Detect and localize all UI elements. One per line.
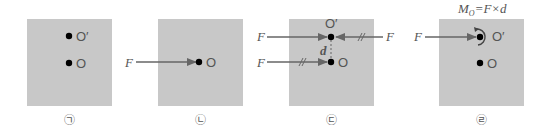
svg-text:O′: O′ <box>325 16 338 31</box>
svg-text:F: F <box>385 29 395 44</box>
point-o <box>328 59 334 65</box>
svg-text:O: O <box>487 56 497 71</box>
force-moment-diagram: O′ O ㉠ F O ㉡ F F O′ d F O ㉢ MO=F×d <box>0 0 551 137</box>
point-o <box>196 59 202 65</box>
caption-c: ㉢ <box>326 114 337 127</box>
svg-text:O′: O′ <box>76 29 89 44</box>
svg-text:O: O <box>76 56 86 71</box>
caption-d: ㉣ <box>476 114 487 127</box>
panel-a: O′ O ㉠ <box>27 19 112 127</box>
panel-d: MO=F×d F O′ O ㉣ <box>413 1 524 127</box>
panel-c: F F O′ d F O ㉢ <box>256 16 395 127</box>
panel-b: F O ㉡ <box>124 19 243 127</box>
svg-text:F: F <box>256 55 266 70</box>
point-o-prime <box>477 34 483 40</box>
svg-text:F: F <box>124 55 134 70</box>
caption-a: ㉠ <box>64 114 75 127</box>
svg-text:d: d <box>320 43 327 58</box>
svg-text:F: F <box>413 29 423 44</box>
svg-text:O: O <box>338 55 348 70</box>
svg-text:O: O <box>206 55 216 70</box>
point-o-prime <box>66 33 72 39</box>
point-o-prime <box>328 34 334 40</box>
svg-text:O′: O′ <box>492 29 505 44</box>
point-o <box>477 60 483 66</box>
point-o <box>66 60 72 66</box>
moment-formula: MO=F×d <box>457 1 507 18</box>
caption-b: ㉡ <box>195 114 206 127</box>
svg-text:F: F <box>256 29 266 44</box>
